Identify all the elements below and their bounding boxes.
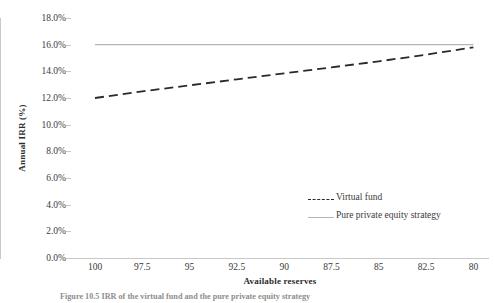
x-axis-tick-label: 100 — [73, 262, 117, 272]
x-axis-tick-label: 82.5 — [404, 262, 448, 272]
dashed-line-swatch — [308, 199, 334, 200]
x-axis-title: Available reserves — [71, 276, 489, 286]
x-axis-line — [71, 258, 489, 259]
y-axis-tick-label: 8.0% — [18, 146, 66, 156]
x-axis-tick-label: 80 — [451, 262, 494, 272]
y-axis-tick-label: 10.0% — [18, 120, 66, 130]
y-axis-tick-mark — [66, 71, 71, 72]
figure-container: Annual IRR (%) 18.0%16.0%14.0%12.0%10.0%… — [0, 0, 494, 303]
y-axis-tick-mark — [66, 45, 71, 46]
y-axis-tick-mark — [66, 98, 71, 99]
y-axis-tick-labels: 18.0%16.0%14.0%12.0%10.0%8.0%6.0%4.0%2.0… — [18, 0, 66, 303]
y-axis-tick-mark — [66, 18, 71, 19]
y-axis-tick-label: 2.0% — [18, 226, 66, 236]
x-axis-tick-label: 92.5 — [215, 262, 259, 272]
chart-legend: Virtual fundPure private equity strategy — [308, 191, 488, 227]
y-axis-tick-label: 4.0% — [18, 200, 66, 210]
x-axis-tick-label: 97.5 — [120, 262, 164, 272]
x-axis-tick-label: 90 — [262, 262, 306, 272]
y-axis-tick-mark — [66, 258, 71, 259]
y-axis-tick-mark — [66, 178, 71, 179]
solid-line-swatch — [308, 217, 334, 218]
y-axis-line — [0, 18, 1, 259]
series-line-virtual-fund — [95, 47, 473, 98]
y-axis-tick-label: 12.0% — [18, 93, 66, 103]
legend-label: Virtual fund — [336, 192, 382, 202]
figure-caption: Figure 10.5 IRR of the virtual fund and … — [60, 292, 460, 301]
x-axis-tick-label: 85 — [357, 262, 401, 272]
x-axis-tick-labels: 10097.59592.59087.58582.580 — [0, 262, 494, 276]
y-axis-tick-mark — [66, 205, 71, 206]
y-axis-tick-label: 16.0% — [18, 40, 66, 50]
y-axis-tick-mark — [66, 231, 71, 232]
y-axis-tick-label: 14.0% — [18, 66, 66, 76]
x-axis-tick-label: 95 — [168, 262, 212, 272]
legend-label: Pure private equity strategy — [336, 210, 441, 220]
y-axis-tick-mark — [66, 125, 71, 126]
y-axis-tick-mark — [66, 151, 71, 152]
x-axis-tick-label: 87.5 — [310, 262, 354, 272]
y-axis-tick-label: 18.0% — [18, 13, 66, 23]
legend-entry[interactable]: Pure private equity strategy — [308, 209, 488, 227]
legend-entry[interactable]: Virtual fund — [308, 191, 488, 209]
y-axis-tick-label: 6.0% — [18, 173, 66, 183]
